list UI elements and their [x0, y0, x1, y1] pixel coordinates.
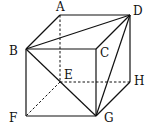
label-A: A	[56, 1, 65, 13]
label-G: G	[104, 112, 114, 124]
diagonal-BD	[26, 15, 130, 49]
label-E: E	[64, 69, 73, 81]
label-D: D	[133, 5, 143, 17]
diagonal-DG	[96, 15, 130, 116]
label-F: F	[9, 112, 17, 124]
cube-diagram	[0, 0, 153, 127]
label-B: B	[9, 45, 18, 57]
hidden-edge-EF	[26, 82, 60, 116]
label-H: H	[134, 75, 144, 87]
label-C: C	[100, 47, 109, 59]
